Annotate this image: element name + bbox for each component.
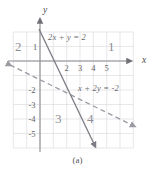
x-tick-2: 2 (65, 64, 69, 73)
y-tick-1: 1 (33, 43, 37, 52)
equation-label-solid: 2x + y = 2 (48, 33, 86, 42)
x-tick-3: 3 (78, 64, 82, 73)
equation-label-dashed: x + 2y = -2 (78, 84, 119, 93)
y-tick-neg4: -4 (29, 115, 36, 124)
region-label-2: 2 (15, 40, 22, 53)
x-axis-label: x (142, 56, 146, 66)
figure-caption: (a) (0, 155, 155, 165)
region-label-4: 4 (87, 112, 94, 125)
y-axis-label: y (43, 6, 47, 16)
figure-container: x y 2 3 4 5 1 -2 -3 -4 -5 1 2 3 4 2x + y… (0, 0, 155, 171)
region-label-1: 1 (108, 40, 115, 53)
x-tick-5: 5 (105, 64, 109, 73)
region-label-3: 3 (55, 112, 62, 125)
y-tick-neg3: -3 (29, 101, 36, 110)
y-tick-neg5: -5 (29, 130, 36, 139)
y-tick-neg2: -2 (29, 86, 36, 95)
x-tick-4: 4 (91, 64, 95, 73)
